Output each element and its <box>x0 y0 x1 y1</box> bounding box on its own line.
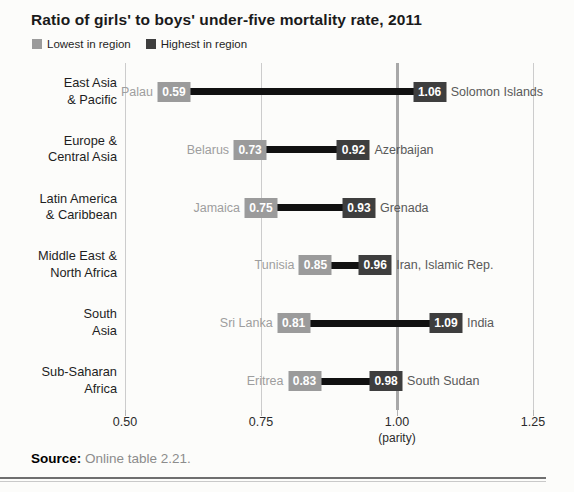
lowest-country-label: Tunisia <box>255 258 295 272</box>
region-label: East Asia & Pacific <box>5 75 117 108</box>
range-connector-line <box>294 320 446 327</box>
lowest-country-label: Eritrea <box>247 374 284 388</box>
bottom-rule <box>0 477 546 479</box>
highest-value-box: 0.96 <box>359 255 392 275</box>
lowest-value-box: 0.85 <box>299 255 332 275</box>
region-label: Sub-Saharan Africa <box>5 364 117 397</box>
lowest-swatch-icon <box>32 39 42 49</box>
lowest-country-label: Palau <box>121 85 153 99</box>
x-tick-label: 1.25 <box>521 415 545 431</box>
highest-value-box: 1.09 <box>429 313 462 333</box>
region-label: Middle East & North Africa <box>5 249 117 282</box>
chart-row: South AsiaSri Lanka0.811.09India <box>125 294 533 352</box>
region-label: South Asia <box>5 307 117 340</box>
x-axis: 0.500.751.00(parity)1.25 <box>125 415 533 449</box>
highest-country-label: Azerbaijan <box>374 143 433 157</box>
highest-country-label: Iran, Islamic Rep. <box>396 258 493 272</box>
lowest-country-label: Sri Lanka <box>220 316 273 330</box>
plot-area: East Asia & PacificPalau0.591.06Solomon … <box>125 63 533 410</box>
highest-country-label: India <box>467 316 494 330</box>
highest-country-label: Grenada <box>380 201 429 215</box>
legend-item-highest: Highest in region <box>146 38 247 50</box>
highest-value-box: 0.98 <box>370 371 403 391</box>
lowest-country-label: Jamaica <box>193 201 240 215</box>
chart-row: Europe & Central AsiaBelarus0.730.92Azer… <box>125 121 533 179</box>
lowest-value-box: 0.83 <box>288 371 321 391</box>
lowest-country-label: Belarus <box>187 143 229 157</box>
highest-value-box: 0.93 <box>342 198 375 218</box>
chart-row: East Asia & PacificPalau0.591.06Solomon … <box>125 63 533 121</box>
lowest-value-box: 0.59 <box>157 82 190 102</box>
chart-title: Ratio of girls' to boys' under-five mort… <box>31 11 422 29</box>
highest-value-box: 0.92 <box>337 140 370 160</box>
source-value: Online table 2.21. <box>85 451 191 466</box>
x-tick-label: 0.50 <box>113 415 137 431</box>
highest-country-label: South Sudan <box>407 374 479 388</box>
chart-row: Latin America & CaribbeanJamaica0.750.93… <box>125 179 533 237</box>
legend-label-highest: Highest in region <box>161 38 247 50</box>
legend-label-lowest: Lowest in region <box>47 38 131 50</box>
lowest-value-box: 0.81 <box>277 313 310 333</box>
legend: Lowest in region Highest in region <box>32 38 247 50</box>
chart-row: Sub-Saharan AfricaEritrea0.830.98South S… <box>125 352 533 410</box>
source-line: Source: Online table 2.21. <box>31 451 191 466</box>
gridline <box>533 63 534 410</box>
region-label: Latin America & Caribbean <box>5 191 117 224</box>
lowest-value-box: 0.73 <box>234 140 267 160</box>
x-tick-label: 1.00(parity) <box>378 415 415 446</box>
highest-country-label: Solomon Islands <box>451 85 543 99</box>
source-label: Source: <box>31 451 81 466</box>
range-connector-line <box>174 88 430 95</box>
bottom-rule-secondary <box>0 481 546 482</box>
lowest-value-box: 0.75 <box>244 198 277 218</box>
x-axis-parity-label: (parity) <box>378 431 415 446</box>
highest-value-box: 1.06 <box>413 82 446 102</box>
highest-swatch-icon <box>146 39 156 49</box>
chart-row: Middle East & North AfricaTunisia0.850.9… <box>125 237 533 295</box>
figure: Ratio of girls' to boys' under-five mort… <box>0 0 574 492</box>
legend-item-lowest: Lowest in region <box>32 38 131 50</box>
region-label: Europe & Central Asia <box>5 133 117 166</box>
x-tick-label: 0.75 <box>249 415 273 431</box>
